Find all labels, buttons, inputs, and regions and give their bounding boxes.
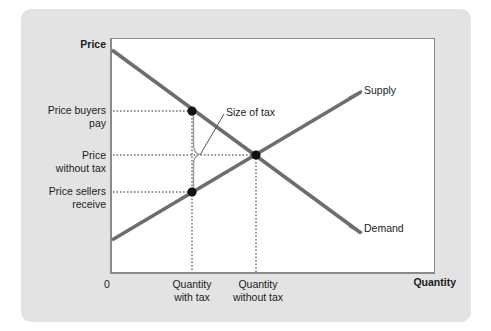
- figure-root: Price Quantity Price buyers pay Price wi…: [0, 0, 491, 331]
- x-label-quantity-with-tax: Quantity with tax: [158, 278, 226, 304]
- y-label-price-without-tax: Price without tax: [32, 149, 106, 175]
- marker-price-sellers-receive: [187, 187, 196, 196]
- marker-price-buyers-pay: [187, 106, 196, 115]
- y-axis-title: Price: [62, 38, 106, 51]
- size-of-tax-annotation-label: Size of tax: [226, 106, 275, 119]
- size-of-tax-leader-line: [200, 114, 224, 155]
- origin-label: 0: [100, 278, 114, 291]
- y-label-price-sellers-receive: Price sellers receive: [32, 185, 106, 211]
- size-of-tax-brace: [194, 112, 200, 191]
- demand-curve: [112, 50, 361, 233]
- x-label-quantity-without-tax: Quantity without tax: [220, 278, 296, 304]
- marker-price-without-tax: [251, 150, 260, 159]
- y-label-price-buyers-pay: Price buyers pay: [32, 104, 106, 130]
- supply-curve-label: Supply: [364, 84, 396, 97]
- demand-curve-label: Demand: [364, 222, 404, 235]
- x-axis-title: Quantity: [392, 276, 456, 289]
